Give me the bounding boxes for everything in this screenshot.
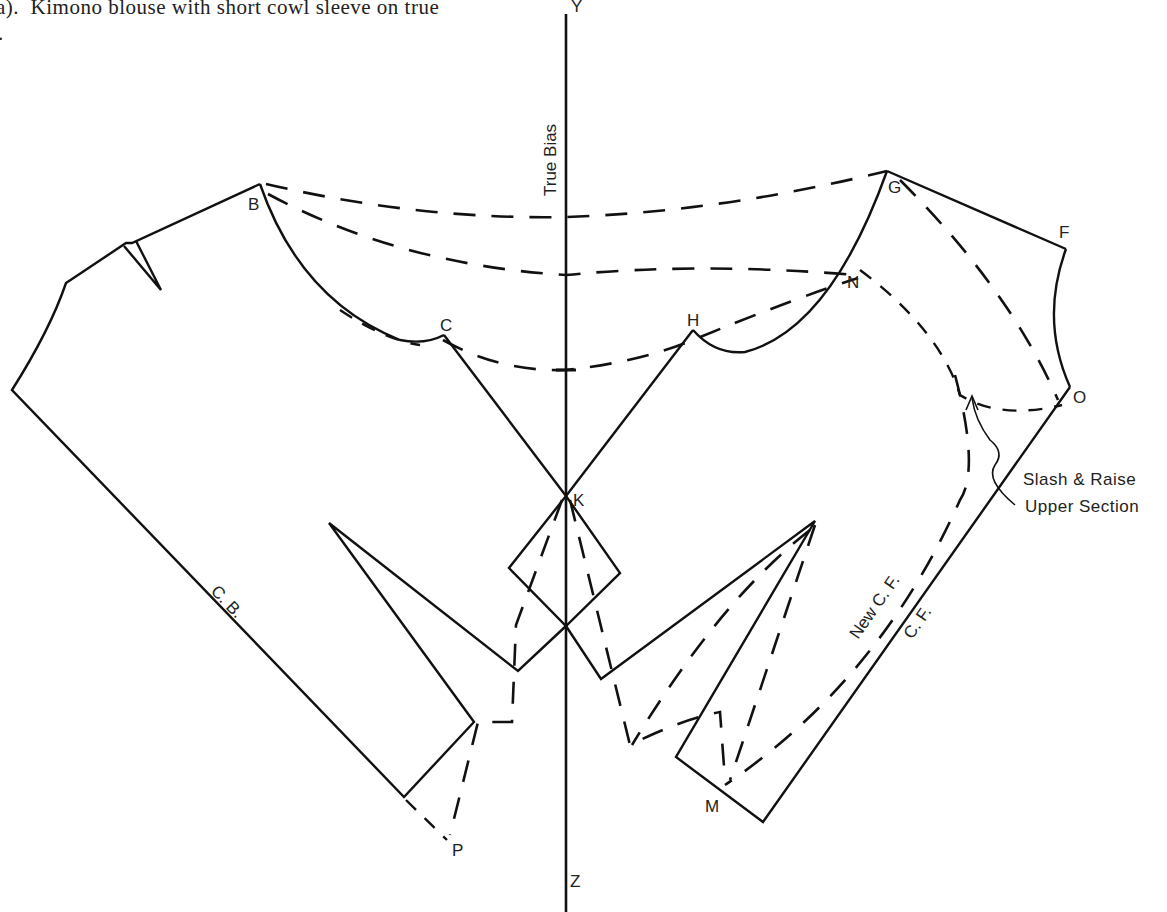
back-hem-dashed xyxy=(406,800,447,840)
front-center-front-line xyxy=(566,387,1070,822)
point-label-f: F xyxy=(1059,223,1069,242)
axis-label-y: Y xyxy=(571,0,582,16)
axis-label-z: Z xyxy=(570,872,580,891)
slash-raise-arrow xyxy=(972,398,1015,505)
n-to-o-dashed-curve xyxy=(860,270,1062,411)
point-label-h: H xyxy=(687,311,699,330)
sleeve-dashed-left xyxy=(450,500,562,835)
annotation-line-1: Slash & Raise xyxy=(1023,470,1136,489)
front-side-curve xyxy=(1054,249,1070,387)
middle-dashed-curve xyxy=(268,194,855,275)
point-label-m: M xyxy=(705,797,719,816)
back-armhole-curve xyxy=(260,184,444,342)
center-back-label: C. B. xyxy=(207,582,247,622)
back-side-line xyxy=(444,335,566,496)
point-label-p: P xyxy=(452,841,463,860)
true-bias-label: True Bias xyxy=(541,124,560,196)
front-side-line xyxy=(566,330,693,496)
annotation-line-2: Upper Section xyxy=(1025,497,1139,516)
new-center-front-label: New C. F. xyxy=(846,571,904,642)
pattern-diagram: Y Z True Bias B C H G F N O K M P C. B. … xyxy=(0,0,1167,912)
upper-dashed-curve xyxy=(266,171,887,217)
point-label-n: N xyxy=(847,273,859,292)
g-to-o-dashed xyxy=(900,180,1058,400)
new-center-front-dashed xyxy=(725,375,969,785)
point-label-k: K xyxy=(573,491,585,510)
gusset-diamond xyxy=(509,496,620,626)
point-label-o: O xyxy=(1073,388,1086,407)
back-pattern-outline xyxy=(12,184,566,797)
back-shoulder-dart xyxy=(124,241,161,290)
front-shoulder-line xyxy=(887,171,1066,249)
point-label-c: C xyxy=(440,316,452,335)
center-front-label: C. F. xyxy=(900,603,936,643)
sleeve-dashed-right xyxy=(570,500,725,780)
point-label-g: G xyxy=(888,178,901,197)
front-armhole-curve xyxy=(693,171,887,352)
point-label-b: B xyxy=(248,195,259,214)
